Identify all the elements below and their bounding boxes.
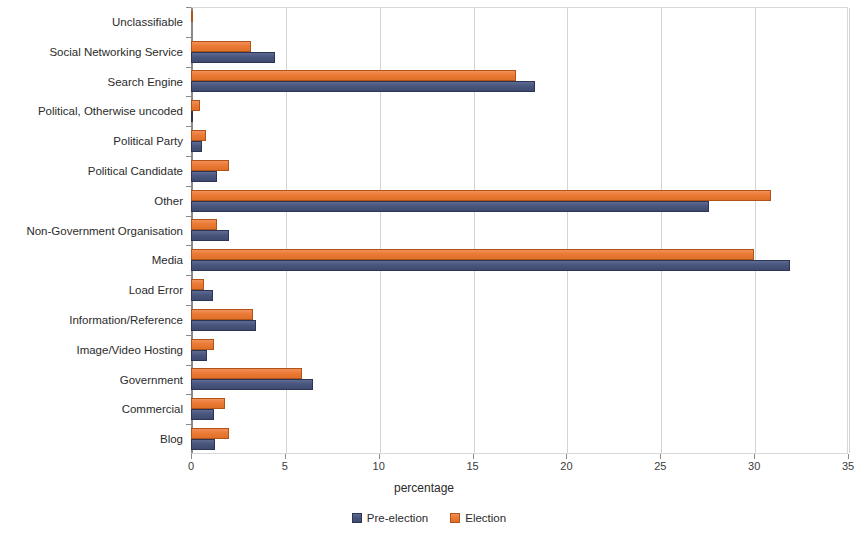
bar-election-search-engine <box>191 70 516 81</box>
x-tick-label-0: 0 <box>171 460 211 472</box>
bar-election-image-video-hosting <box>191 339 214 350</box>
y-tick-3 <box>186 96 191 97</box>
x-tick-0 <box>191 454 192 459</box>
x-tick-35 <box>848 454 849 459</box>
category-label-media: Media <box>7 254 191 266</box>
bar-pre-election-political-party <box>191 141 202 152</box>
bar-election-load-error <box>191 279 204 290</box>
y-tick-13 <box>186 394 191 395</box>
bar-chart: UnclassifiableSocial Networking ServiceS… <box>0 0 858 533</box>
x-tick-label-5: 5 <box>265 460 305 472</box>
bar-group <box>191 335 848 365</box>
bar-election-media <box>191 249 754 260</box>
y-tick-4 <box>186 126 191 127</box>
bar-group <box>191 216 848 246</box>
bar-pre-election-information-reference <box>191 320 256 331</box>
bar-pre-election-non-government-organisation <box>191 230 229 241</box>
legend-item-pre-election: Pre-election <box>352 512 428 524</box>
bar-pre-election-government <box>191 379 313 390</box>
y-tick-11 <box>186 335 191 336</box>
bar-group <box>191 424 848 454</box>
chart-legend: Pre-election Election <box>0 512 858 524</box>
bar-group <box>191 305 848 335</box>
x-tick-15 <box>473 454 474 459</box>
bar-election-blog <box>191 428 229 439</box>
bar-election-political-candidate <box>191 160 229 171</box>
category-label-blog: Blog <box>7 433 191 445</box>
x-tick-20 <box>566 454 567 459</box>
category-label-political-candidate: Political Candidate <box>7 165 191 177</box>
legend-swatch-election-icon <box>450 513 460 523</box>
bar-election-other <box>191 190 771 201</box>
y-tick-8 <box>186 245 191 246</box>
bar-pre-election-load-error <box>191 290 213 301</box>
legend-item-election: Election <box>450 512 506 524</box>
x-tick-10 <box>379 454 380 459</box>
x-tick-label-25: 25 <box>640 460 680 472</box>
bar-election-political-party <box>191 130 206 141</box>
bar-group <box>191 365 848 395</box>
bar-pre-election-search-engine <box>191 81 535 92</box>
y-tick-7 <box>186 216 191 217</box>
y-tick-2 <box>186 67 191 68</box>
bar-group <box>191 67 848 97</box>
bar-group <box>191 394 848 424</box>
bar-election-social-networking-service <box>191 41 251 52</box>
legend-label-election: Election <box>465 512 506 524</box>
category-label-political-otherwise-uncoded: Political, Otherwise uncoded <box>7 105 191 117</box>
y-tick-6 <box>186 186 191 187</box>
x-tick-label-10: 10 <box>359 460 399 472</box>
x-tick-5 <box>285 454 286 459</box>
bar-election-political-otherwise-uncoded <box>191 100 200 111</box>
y-tick-12 <box>186 365 191 366</box>
bar-pre-election-image-video-hosting <box>191 350 207 361</box>
y-tick-1 <box>186 37 191 38</box>
bar-group <box>191 37 848 67</box>
y-tick-10 <box>186 305 191 306</box>
bar-pre-election-political-candidate <box>191 171 217 182</box>
x-tick-label-15: 15 <box>453 460 493 472</box>
bar-pre-election-commercial <box>191 409 214 420</box>
bar-election-commercial <box>191 398 225 409</box>
bar-pre-election-political-otherwise-uncoded <box>191 111 193 122</box>
bar-election-information-reference <box>191 309 253 320</box>
bar-group <box>191 156 848 186</box>
bar-group <box>191 126 848 156</box>
bar-group <box>191 96 848 126</box>
category-label-commercial: Commercial <box>7 403 191 415</box>
y-tick-9 <box>186 275 191 276</box>
category-axis-labels: UnclassifiableSocial Networking ServiceS… <box>0 7 191 454</box>
bar-pre-election-social-networking-service <box>191 52 275 63</box>
x-axis-title: percentage <box>191 481 657 495</box>
category-label-load-error: Load Error <box>7 284 191 296</box>
category-label-unclassifiable: Unclassifiable <box>7 16 191 28</box>
bar-group <box>191 7 848 37</box>
category-label-other: Other <box>7 195 191 207</box>
bar-rows <box>191 7 848 454</box>
legend-label-pre-election: Pre-election <box>367 512 428 524</box>
x-tick-label-20: 20 <box>546 460 586 472</box>
bar-group <box>191 245 848 275</box>
category-label-non-government-organisation: Non-Government Organisation <box>7 225 191 237</box>
category-label-government: Government <box>7 374 191 386</box>
x-tick-30 <box>754 454 755 459</box>
bar-election-non-government-organisation <box>191 219 217 230</box>
x-tick-label-30: 30 <box>734 460 774 472</box>
bar-election-unclassifiable <box>191 11 193 22</box>
category-label-social-networking-service: Social Networking Service <box>7 46 191 58</box>
category-label-image-video-hosting: Image/Video Hosting <box>7 344 191 356</box>
category-label-search-engine: Search Engine <box>7 76 191 88</box>
bar-group <box>191 186 848 216</box>
bar-pre-election-other <box>191 201 709 212</box>
y-tick-14 <box>186 424 191 425</box>
y-tick-5 <box>186 156 191 157</box>
bar-pre-election-blog <box>191 439 215 450</box>
legend-swatch-pre-election-icon <box>352 513 362 523</box>
category-label-information-reference: Information/Reference <box>7 314 191 326</box>
bar-election-government <box>191 368 302 379</box>
bar-pre-election-media <box>191 260 790 271</box>
y-tick-0 <box>186 7 191 8</box>
x-tick-25 <box>660 454 661 459</box>
bar-group <box>191 275 848 305</box>
x-tick-label-35: 35 <box>828 460 858 472</box>
